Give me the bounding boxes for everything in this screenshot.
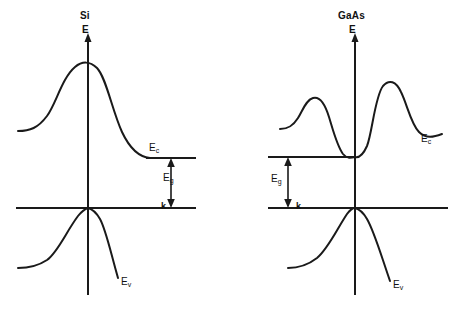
- gaas-ec-sub: c: [428, 138, 432, 145]
- gaas-valence-band-label: Ev: [393, 280, 403, 290]
- si-eg-base: E: [163, 172, 170, 183]
- band-diagram-canvas: [0, 0, 452, 316]
- gaas-ec-base: E: [421, 133, 428, 144]
- gaas-title: GaAs: [338, 11, 365, 21]
- si-title: Si: [80, 11, 90, 21]
- si-valence-band-left-curve: [18, 208, 88, 268]
- gaas-wavevector-axis-label: k: [296, 202, 301, 211]
- si-conduction-band-label: Ec: [149, 143, 159, 153]
- si-ec-base: E: [149, 142, 156, 153]
- gaas-conduction-band-right-curve: [355, 82, 442, 157]
- si-valence-band-right-curve: [88, 208, 118, 278]
- si-ec-sub: c: [156, 147, 160, 154]
- gaas-eg-sub: g: [278, 178, 282, 185]
- si-energy-axis-label: E: [82, 25, 89, 35]
- gaas-energy-axis-label: E: [349, 25, 356, 35]
- gaas-conduction-band-left-curve: [280, 98, 355, 158]
- gaas-valence-band-right-curve: [355, 208, 390, 281]
- si-band-gap-arrowhead-up: [167, 158, 175, 167]
- gaas-band-gap-arrowhead-down: [284, 199, 292, 208]
- gaas-ev-sub: v: [400, 284, 404, 291]
- gaas-valence-band-left-curve: [288, 208, 355, 268]
- gaas-band-gap-label: Eg: [271, 174, 282, 184]
- gaas-eg-base: E: [271, 173, 278, 184]
- si-ev-base: E: [121, 276, 128, 287]
- si-band-gap-arrowhead-down: [167, 199, 175, 208]
- si-panel: [16, 33, 196, 295]
- gaas-conduction-band-label: Ec: [421, 134, 431, 144]
- si-eg-sub: g: [170, 177, 174, 184]
- si-wavevector-axis-label: k: [161, 202, 166, 211]
- si-conduction-band-curve: [18, 63, 150, 158]
- si-band-gap-label: Eg: [163, 173, 174, 183]
- gaas-ev-base: E: [393, 279, 400, 290]
- gaas-band-gap-arrowhead-up: [284, 157, 292, 166]
- gaas-panel: [268, 33, 448, 295]
- band-structure-figure: Si E k Ec Eg Ev GaAs E k Ec Eg Ev: [0, 0, 452, 316]
- si-valence-band-label: Ev: [121, 277, 131, 287]
- si-ev-sub: v: [128, 281, 132, 288]
